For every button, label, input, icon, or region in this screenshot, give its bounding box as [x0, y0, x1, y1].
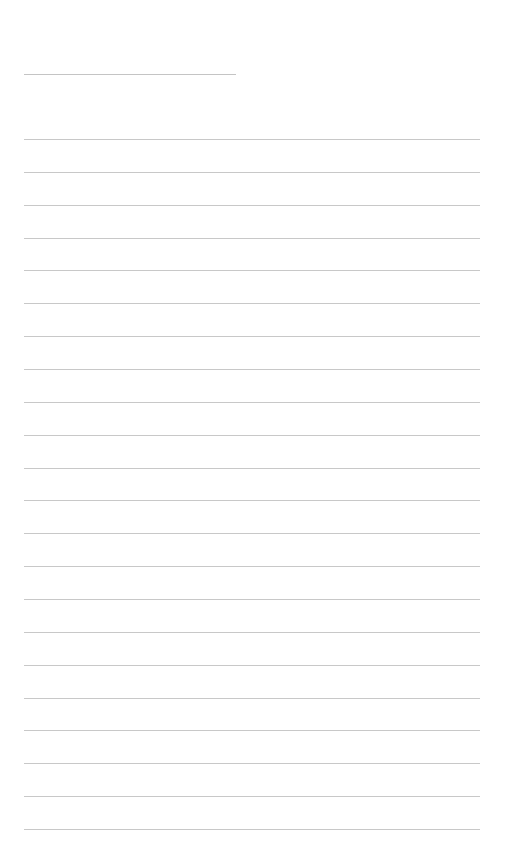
ruled-line [24, 336, 480, 337]
ruled-line [24, 566, 480, 567]
ruled-line [24, 303, 480, 304]
ruled-line [24, 139, 480, 140]
ruled-line [24, 172, 480, 173]
ruled-line [24, 435, 480, 436]
ruled-line [24, 763, 480, 764]
ruled-line [24, 238, 480, 239]
ruled-line [24, 500, 480, 501]
ruled-line [24, 698, 480, 699]
ruled-line [24, 829, 480, 830]
ruled-line [24, 468, 480, 469]
ruled-line [24, 533, 480, 534]
ruled-line [24, 730, 480, 731]
ruled-line [24, 632, 480, 633]
ruled-line [24, 270, 480, 271]
ruled-line [24, 599, 480, 600]
ruled-line [24, 402, 480, 403]
ruled-line [24, 665, 480, 666]
title-line [24, 74, 236, 75]
ruled-line [24, 796, 480, 797]
ruled-line [24, 205, 480, 206]
ruled-line [24, 369, 480, 370]
